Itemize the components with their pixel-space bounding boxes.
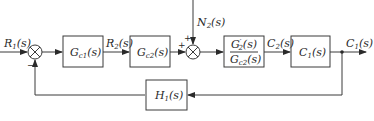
label-c1-output: C1(s) xyxy=(346,37,373,51)
label-r1: R1(s) xyxy=(3,37,31,51)
label-gc2: Gc2(s) xyxy=(137,46,168,60)
block-diagram: R1(s) R2(s) N2(s) C2(s) C1(s) Gc1(s) Gc2… xyxy=(0,0,374,121)
label-r2: R2(s) xyxy=(105,37,133,51)
feedback-left-line xyxy=(35,60,145,95)
label-gc1: Gc1(s) xyxy=(70,46,101,60)
sign-minus-sum1: − xyxy=(27,60,35,70)
takeoff-point xyxy=(340,50,344,54)
label-h1: H1(s) xyxy=(154,89,183,103)
label-c1-block: C1(s) xyxy=(299,46,326,60)
summing-junction-2 xyxy=(186,45,200,59)
label-n2: N2(s) xyxy=(196,16,225,30)
label-c2: C2(s) xyxy=(267,37,294,51)
sign-plus-sum2-top: + xyxy=(184,33,192,43)
label-gc2-denominator: Gc2(s) xyxy=(230,53,261,67)
label-g2-prime: G′2(s) xyxy=(231,38,257,52)
